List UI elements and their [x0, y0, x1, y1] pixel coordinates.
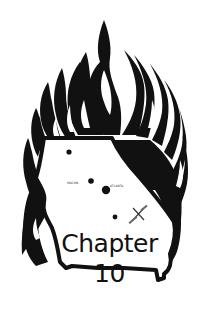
city-label-macon: MACON: [67, 181, 78, 185]
city-dot-icon: [66, 149, 71, 154]
capital-dot-icon: [102, 186, 110, 194]
city-dot-icon: [88, 178, 94, 184]
city-label-atlanta: ATLANTA: [110, 184, 123, 188]
city-dot-icon: [113, 215, 118, 220]
chapter-title: Chapter: [4, 229, 211, 258]
chapter-logo: MACON ATLANTA Chapter 10: [0, 0, 211, 315]
chapter-number: 10: [4, 259, 211, 288]
